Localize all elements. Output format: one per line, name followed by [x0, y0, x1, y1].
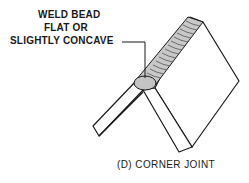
caption: (D) CORNER JOINT [117, 159, 215, 170]
corner-joint-drawing [0, 0, 249, 183]
label-flat-or: FLAT OR [44, 22, 88, 33]
corner-joint-diagram: WELD BEAD FLAT OR SLIGHTLY CONCAVE (D) C… [0, 0, 249, 183]
label-weld-bead: WELD BEAD [38, 9, 100, 20]
label-slightly-concave: SLIGHTLY CONCAVE [10, 35, 114, 46]
